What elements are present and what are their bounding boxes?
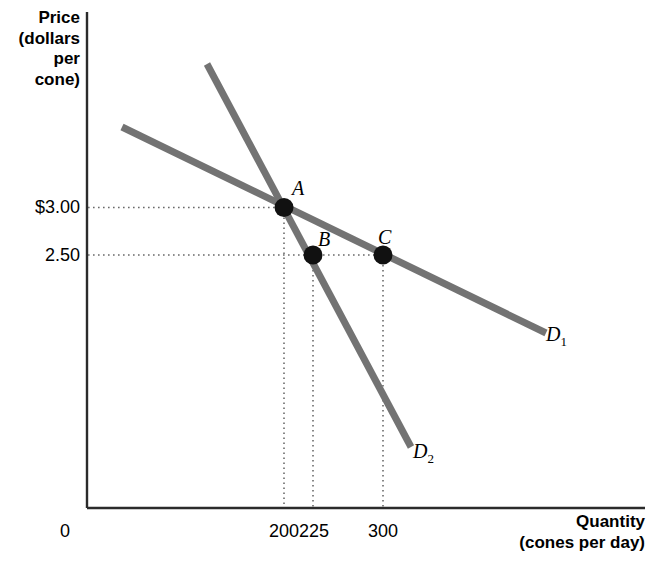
guide-lines-vertical [284, 208, 383, 508]
x-tick-label-0: 0 [45, 521, 85, 542]
y-tick-label-300: $3.00 [0, 197, 80, 218]
x-axis-title: Quantity (cones per day) [445, 512, 645, 553]
curve-label-d2-subscript: 2 [427, 451, 434, 466]
x-tick-label-225: 225 [284, 521, 344, 542]
axes-group [87, 12, 645, 508]
chart-canvas [0, 0, 650, 572]
curve-label-d2: D2 [413, 440, 434, 467]
curve-label-d1-text: D [546, 323, 560, 345]
point-label-c: C [378, 226, 391, 249]
y-axis-title: Price (dollars per cone) [0, 8, 80, 90]
curve-label-d1: D1 [546, 323, 567, 350]
data-point-a [275, 198, 294, 217]
point-label-a: A [292, 177, 304, 200]
demand-curve-chart: Price (dollars per cone) Quantity (cones… [0, 0, 650, 572]
curve-label-d1-subscript: 1 [560, 334, 567, 349]
curve-label-d2-text: D [413, 440, 427, 462]
x-tick-label-300: 300 [353, 521, 413, 542]
point-label-b: B [318, 228, 330, 251]
y-tick-label-250: 2.50 [0, 245, 80, 266]
